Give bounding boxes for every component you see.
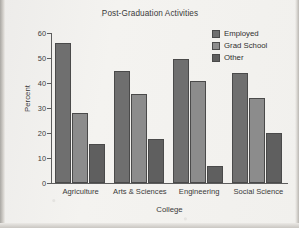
y-tick-label: 50	[38, 55, 46, 62]
legend-label: Grad School	[224, 41, 267, 50]
x-axis-title: College	[51, 205, 288, 214]
y-axis-title: Percent	[23, 69, 32, 129]
y-tick-label: 10	[38, 155, 46, 162]
x-category-label: Social Science	[229, 187, 288, 196]
legend-swatch-icon	[212, 42, 220, 50]
x-axis-line	[51, 183, 288, 184]
bar-group	[114, 33, 164, 183]
bar	[266, 133, 282, 183]
bar	[55, 43, 71, 183]
chart-title: Post-Graduation Activities	[50, 9, 250, 18]
x-category-label: Agriculture	[51, 187, 110, 196]
bar	[89, 144, 105, 183]
bar	[173, 59, 189, 183]
legend-swatch-icon	[212, 54, 220, 62]
legend-item: Grad School	[212, 40, 267, 51]
chart-legend: EmployedGrad SchoolOther	[212, 28, 267, 64]
scanned-chart-image: Post-Graduation Activities Percent Colle…	[0, 0, 299, 228]
bar	[131, 94, 147, 183]
legend-label: Other	[224, 53, 244, 62]
legend-item: Other	[212, 52, 267, 63]
y-tick-label: 0	[42, 180, 46, 187]
y-tick-label: 30	[38, 105, 46, 112]
bar	[72, 113, 88, 183]
bar	[114, 71, 130, 184]
legend-swatch-icon	[212, 30, 220, 38]
x-category-label: Engineering	[170, 187, 229, 196]
y-tick-label: 20	[38, 130, 46, 137]
y-tick-mark	[47, 183, 51, 184]
legend-item: Employed	[212, 28, 267, 39]
bar	[190, 81, 206, 184]
x-category-label: Arts & Sciences	[110, 187, 169, 196]
legend-label: Employed	[224, 29, 259, 38]
y-tick-label: 40	[38, 80, 46, 87]
bar	[232, 73, 248, 183]
bar-group	[55, 33, 105, 183]
chart-plot-area: Post-Graduation Activities Percent Colle…	[0, 0, 299, 228]
bar	[249, 98, 265, 183]
bar	[148, 139, 164, 183]
y-tick-label: 60	[38, 30, 46, 37]
bar	[207, 166, 223, 184]
